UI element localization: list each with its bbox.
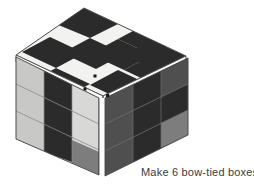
marker-dot-top-face (94, 75, 97, 78)
puzzle-figure: Make 6 bow-tied boxes (0, 0, 254, 193)
front-vertical-bevel (99, 98, 105, 176)
marker-dot-left-face (84, 88, 87, 91)
right-col-1-black (133, 71, 161, 162)
marker-dot-right-face (106, 94, 109, 97)
figure-caption: Make 6 bow-tied boxes (141, 165, 251, 179)
cube-front-edge-bevel (99, 98, 105, 176)
left-col-1-black (44, 71, 72, 162)
